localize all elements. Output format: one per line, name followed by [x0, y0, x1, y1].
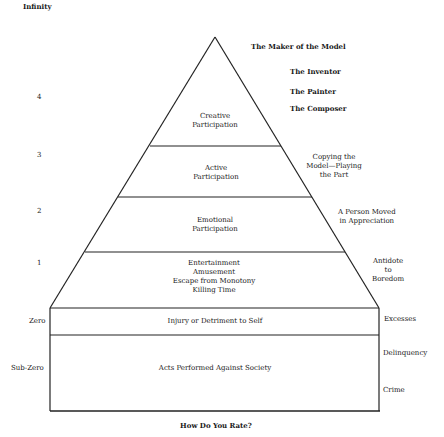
caption: How Do You Rate? — [180, 421, 252, 430]
example-delinquency: Delinquency — [383, 349, 427, 358]
tier-creative-participation: Creative Participation — [192, 112, 238, 130]
tier-entertainment: Entertainment Amusement Escape from Mono… — [173, 259, 255, 295]
example-composer: The Composer — [290, 104, 346, 113]
tier-emotional-participation: Emotional Participation — [192, 216, 238, 234]
tier-active-participation: Active Participation — [193, 164, 239, 182]
tier-injury-to-self: Injury or Detriment to Self — [168, 317, 263, 326]
example-painter: The Painter — [290, 87, 336, 96]
example-crime: Crime — [383, 386, 405, 395]
scale-zero: Zero — [29, 317, 46, 326]
infinity-label: Infinity — [23, 2, 52, 11]
tier-acts-against-society: Acts Performed Against Society — [159, 364, 271, 373]
example-copying-the-model: Copying the Model—Playing the Part — [306, 153, 362, 180]
example-person-moved: A Person Moved in Appreciation — [338, 208, 396, 226]
scale-4: 4 — [37, 93, 41, 102]
scale-1: 1 — [37, 259, 41, 268]
example-inventor: The Inventor — [290, 67, 341, 76]
scale-sub-zero: Sub-Zero — [11, 364, 44, 373]
example-maker-of-model: The Maker of the Model — [251, 42, 346, 51]
scale-3: 3 — [37, 151, 41, 160]
example-excesses: Excesses — [384, 315, 416, 324]
example-antidote-to-boredom: Antidote to Boredom — [372, 257, 404, 284]
scale-2: 2 — [37, 207, 41, 216]
